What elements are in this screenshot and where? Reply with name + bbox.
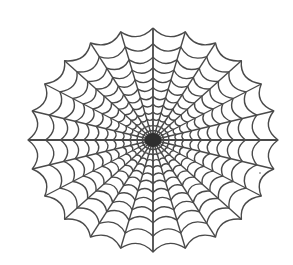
stray-marks bbox=[259, 172, 261, 174]
stray-dot bbox=[259, 172, 261, 174]
spider-web-image bbox=[0, 0, 293, 265]
web-hub-center bbox=[145, 133, 162, 147]
web-hub bbox=[145, 133, 162, 147]
